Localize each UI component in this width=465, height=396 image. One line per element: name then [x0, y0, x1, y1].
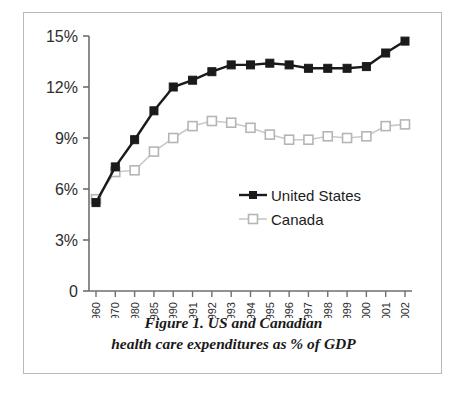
data-point-marker — [149, 147, 158, 156]
data-point-marker — [207, 117, 216, 126]
data-point-marker — [111, 163, 119, 171]
y-tick-label-2: 6% — [55, 181, 78, 198]
data-point-marker — [285, 61, 293, 69]
data-point-marker — [247, 61, 255, 69]
data-series-layer — [92, 37, 410, 207]
chart-plot-area: 03%6%9%12%15% 19601970198019851990199119… — [24, 13, 443, 318]
data-point-marker — [169, 134, 178, 143]
data-point-marker — [362, 63, 370, 71]
data-point-marker — [265, 130, 274, 139]
legend-marker-open-square — [249, 215, 258, 224]
data-point-marker — [208, 68, 216, 76]
data-point-marker — [227, 61, 235, 69]
data-point-marker — [381, 122, 390, 131]
data-point-marker — [323, 132, 332, 141]
data-point-marker — [92, 199, 100, 207]
data-point-marker — [169, 83, 177, 91]
caption-line-2: health care expenditures as % of GDP — [24, 334, 443, 355]
y-tick-label-4: 12% — [46, 79, 78, 96]
chart-legend: United StatesCanada — [239, 187, 361, 228]
legend-label: Canada — [271, 211, 324, 228]
data-point-marker — [246, 123, 255, 132]
line-chart: 03%6%9%12%15% 19601970198019851990199119… — [24, 13, 443, 318]
data-point-marker — [382, 49, 390, 57]
y-tick-label-1: 3% — [55, 232, 78, 249]
data-point-marker — [304, 64, 312, 72]
data-point-marker — [189, 76, 197, 84]
y-tick-label-3: 9% — [55, 130, 78, 147]
data-point-marker — [227, 118, 236, 127]
data-point-marker — [401, 37, 409, 45]
figure-caption: Figure 1. US and Canadian health care ex… — [24, 313, 443, 355]
data-point-marker — [343, 134, 352, 143]
y-axis-ticks: 03%6%9%12%15% — [46, 28, 89, 300]
data-point-marker — [401, 120, 410, 129]
data-point-marker — [285, 135, 294, 144]
data-point-marker — [304, 135, 313, 144]
series-united-states — [92, 37, 409, 207]
data-point-marker — [343, 64, 351, 72]
legend-item-united-states[interactable]: United States — [239, 187, 361, 204]
legend-label: United States — [271, 187, 361, 204]
y-tick-label-0: 0 — [69, 283, 78, 300]
data-point-marker — [188, 122, 197, 131]
data-point-marker — [150, 107, 158, 115]
data-point-marker — [324, 64, 332, 72]
data-point-marker — [362, 132, 371, 141]
caption-line-1: Figure 1. US and Canadian — [24, 313, 443, 334]
legend-item-canada[interactable]: Canada — [239, 211, 324, 228]
series-canada — [92, 117, 410, 204]
data-point-marker — [131, 136, 139, 144]
data-point-marker — [130, 166, 139, 175]
legend-marker-filled-square — [249, 191, 257, 199]
y-tick-label-5: 15% — [46, 28, 78, 45]
data-point-marker — [266, 59, 274, 67]
figure-frame: 03%6%9%12%15% 19601970198019851990199119… — [23, 12, 442, 374]
